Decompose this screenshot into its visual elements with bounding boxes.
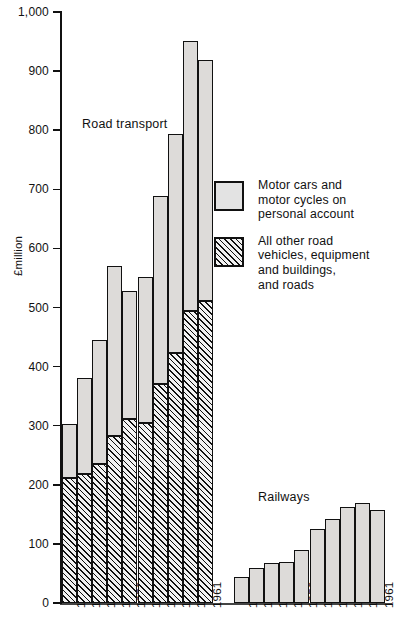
bar-segment xyxy=(310,529,325,603)
bar-series-layer xyxy=(0,0,400,635)
bar-segment xyxy=(122,419,137,603)
bar-segment xyxy=(77,378,92,473)
bar-segment xyxy=(122,291,137,419)
legend-item: Motor cars and motor cycles on personal … xyxy=(214,178,394,222)
bar-segment xyxy=(168,134,183,353)
bar-segment xyxy=(325,519,340,603)
legend: Motor cars and motor cycles on personal … xyxy=(214,178,394,304)
legend-item: All other road vehicles, equipment and b… xyxy=(214,234,394,292)
bar-segment xyxy=(340,507,355,603)
group-title-road-transport: Road transport xyxy=(82,117,167,131)
bar-segment xyxy=(77,474,92,603)
bar-segment xyxy=(92,340,107,464)
bar-segment xyxy=(107,436,122,603)
bar-segment xyxy=(153,384,168,603)
legend-swatch xyxy=(214,237,244,267)
group-title-railways: Railways xyxy=(258,490,310,504)
bar-segment xyxy=(92,464,107,603)
legend-label: Motor cars and motor cycles on personal … xyxy=(258,178,394,222)
bar-segment xyxy=(234,577,249,603)
legend-swatch xyxy=(214,181,244,211)
bar-segment xyxy=(294,550,309,603)
bar-segment xyxy=(138,423,153,603)
bar-segment xyxy=(62,478,77,603)
bar-segment xyxy=(198,60,213,301)
bar-segment xyxy=(370,510,385,603)
bar-segment xyxy=(198,301,213,603)
bar-segment xyxy=(355,503,370,603)
bar-segment xyxy=(153,196,168,384)
bar-segment xyxy=(249,568,264,603)
bar-segment xyxy=(183,311,198,603)
bar-segment xyxy=(62,424,77,478)
bar-segment xyxy=(183,41,198,311)
bar-segment xyxy=(138,277,153,422)
bar-segment xyxy=(264,563,279,603)
bar-segment xyxy=(107,266,122,436)
bar-segment xyxy=(168,353,183,603)
legend-label: All other road vehicles, equipment and b… xyxy=(258,234,394,292)
bar-segment xyxy=(279,562,294,603)
chart-canvas: £million 01002003004005006007008009001,0… xyxy=(0,0,400,635)
